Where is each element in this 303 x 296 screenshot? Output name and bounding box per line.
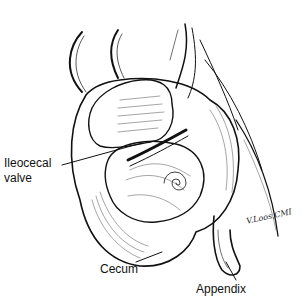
upper-pouch <box>89 80 173 148</box>
cecum-illustration <box>0 0 303 296</box>
label-ileocecal-line1: Ileocecal <box>4 156 51 170</box>
illustration-canvas: Ileocecal valve Cecum Appendix V.Loos,CM… <box>0 0 303 296</box>
label-ileocecal-line2: valve <box>4 171 32 185</box>
spiral-center <box>164 172 186 190</box>
label-cecum: Cecum <box>100 262 138 276</box>
label-appendix: Appendix <box>196 282 246 296</box>
appendix-leader-line <box>226 262 236 280</box>
mesentery-strands <box>176 24 187 88</box>
cecum-leader-line <box>136 252 162 262</box>
